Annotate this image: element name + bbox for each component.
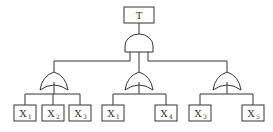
basic-event: X4 [155,105,177,121]
basic-event-label: X [47,108,55,119]
basic-event: X5 [242,105,264,121]
basic-event-subscript: 1 [28,113,32,120]
basic-event-subscript: 4 [169,113,173,120]
basic-event: X1 [14,105,36,121]
basic-event-subscript: 3 [83,113,87,120]
basic-event-label: X [194,108,202,119]
and-gate-icon [125,34,153,52]
basic-event-label: X [160,108,168,119]
basic-event-label: X [19,108,27,119]
basic-event-subscript: 1 [116,113,120,120]
basic-event-subscript: 2 [56,113,60,120]
or-gate-group: X1X4 [102,72,177,121]
basic-event: X2 [42,105,64,121]
basic-event-label: X [107,108,115,119]
basic-event-subscript: 5 [256,113,260,120]
basic-event-subscript: 3 [203,113,207,120]
basic-event: X3 [69,105,91,121]
basic-event: X1 [102,105,124,121]
top-event: T [124,7,154,23]
or-gate-group: X3X5 [189,72,264,121]
fault-tree-diagram: T X1X2X3X1X4X3X5 [0,0,273,132]
or-gate-group: X1X2X3 [14,72,91,121]
basic-event: X3 [189,105,211,121]
top-event-label: T [136,10,143,21]
basic-event-label: X [247,108,255,119]
basic-event-label: X [74,108,82,119]
